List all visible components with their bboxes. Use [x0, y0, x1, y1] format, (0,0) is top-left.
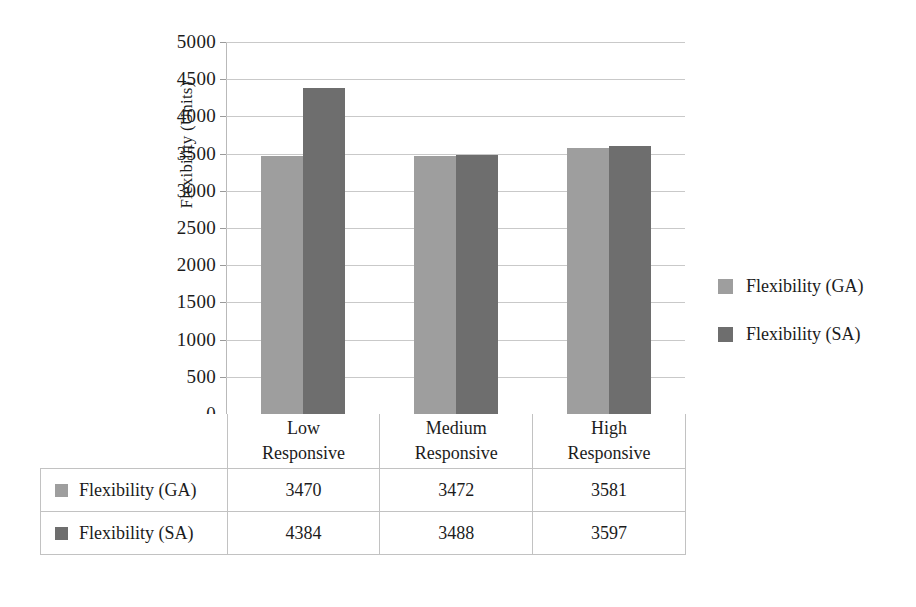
bar-sa-2 — [609, 146, 651, 414]
bar-sa-1 — [456, 155, 498, 415]
bar-chart-figure: Flexibility (Units) 50004500400035003000… — [0, 0, 916, 607]
table-column-header-1: MediumResponsive — [380, 414, 533, 469]
y-tick-500 — [220, 377, 226, 378]
table-series-name: Flexibility (GA) — [79, 480, 197, 501]
table-cell-r0-c1: 3472 — [380, 469, 533, 512]
table-header-row: LowResponsiveMediumResponsiveHighRespons… — [41, 414, 686, 469]
table-column-header-2: HighResponsive — [533, 414, 686, 469]
bar-ga-2 — [567, 148, 609, 414]
table-row: Flexibility (SA)438434883597 — [41, 512, 686, 555]
y-tick-4500 — [220, 79, 226, 80]
legend-item-sa[interactable]: Flexibility (SA) — [718, 310, 908, 358]
table-swatch-icon — [55, 527, 68, 540]
y-tick-label-4500: 4500 — [116, 69, 216, 88]
y-tick-3500 — [220, 154, 226, 155]
legend-swatch-icon — [718, 327, 733, 342]
gridline-4500 — [226, 79, 685, 80]
table-series-name: Flexibility (SA) — [79, 523, 194, 544]
table-cell-r1-c0: 4384 — [227, 512, 380, 555]
table-corner-cell — [41, 414, 228, 469]
table-cell-r0-c2: 3581 — [533, 469, 686, 512]
y-tick-label-5000: 5000 — [116, 32, 216, 51]
y-tick-label-1000: 1000 — [116, 330, 216, 349]
y-tick-4000 — [220, 116, 226, 117]
bar-ga-0 — [261, 156, 303, 414]
legend-swatch-icon — [718, 279, 733, 294]
y-tick-2000 — [220, 265, 226, 266]
y-axis-tick-labels: 5000450040003500300025002000150010005000 — [112, 42, 216, 414]
y-tick-label-3000: 3000 — [116, 181, 216, 200]
y-tick-label-4000: 4000 — [116, 106, 216, 125]
table-cell-r1-c2: 3597 — [533, 512, 686, 555]
legend-label: Flexibility (SA) — [746, 324, 861, 345]
y-tick-label-1500: 1500 — [116, 292, 216, 311]
bar-ga-1 — [414, 156, 456, 414]
chart-legend: Flexibility (GA)Flexibility (SA) — [718, 262, 908, 358]
table-cell-r1-c1: 3488 — [380, 512, 533, 555]
y-tick-2500 — [220, 228, 226, 229]
table-series-label-cell: Flexibility (GA) — [41, 469, 228, 512]
y-tick-1500 — [220, 302, 226, 303]
y-tick-1000 — [220, 340, 226, 341]
legend-item-ga[interactable]: Flexibility (GA) — [718, 262, 908, 310]
table-cell-r0-c0: 3470 — [227, 469, 380, 512]
legend-label: Flexibility (GA) — [746, 276, 864, 297]
y-tick-label-2000: 2000 — [116, 255, 216, 274]
gridline-5000 — [226, 42, 685, 43]
table-series-label-cell: Flexibility (SA) — [41, 512, 228, 555]
y-tick-label-500: 500 — [116, 367, 216, 386]
plot-area — [226, 42, 685, 414]
table-row: Flexibility (GA)347034723581 — [41, 469, 686, 512]
chart-data-table: LowResponsiveMediumResponsiveHighRespons… — [40, 414, 686, 555]
y-tick-label-3500: 3500 — [116, 144, 216, 163]
bar-sa-0 — [303, 88, 345, 414]
table-column-header-0: LowResponsive — [227, 414, 380, 469]
gridline-4000 — [226, 116, 685, 117]
y-tick-label-2500: 2500 — [116, 218, 216, 237]
table-swatch-icon — [55, 484, 68, 497]
y-tick-5000 — [220, 42, 226, 43]
y-tick-3000 — [220, 191, 226, 192]
